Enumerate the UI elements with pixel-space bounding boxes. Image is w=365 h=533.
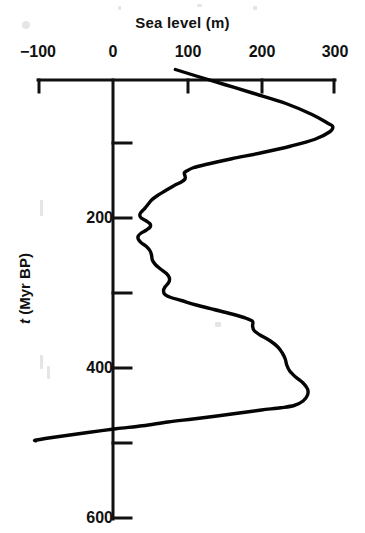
sea-level-axis [38,80,335,92]
time-axis [113,80,131,519]
plot-area [0,0,365,533]
sea-level-vs-time-chart: Sea level (m) −100 0 100 200 300 200 400… [0,0,365,533]
sea-level-curve [34,70,332,441]
